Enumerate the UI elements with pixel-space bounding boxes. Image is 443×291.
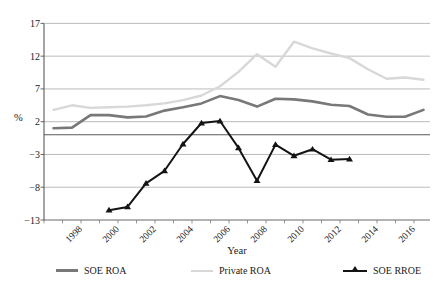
legend-item-soe-rroe: SOE RROE [343,263,421,277]
y-axis-tick-label: 2 [10,115,40,128]
legend-item-soe-roa: SOE ROA [56,263,127,277]
y-axis-tick-label: −3 [10,148,40,161]
roa-rroe-line-chart: % Year 171272−3−8−1319982000200220042006… [0,0,443,291]
soe-rroe-line-swatch-icon [343,263,367,277]
y-axis-tick-label: −13 [10,214,40,227]
triangle-marker-icon [272,141,279,147]
y-axis-tick-label: 7 [10,82,40,95]
legend-label-private-roa: Private ROA [219,265,271,276]
series-line-soe-roa [54,96,424,128]
legend-label-soe-roa: SOE ROA [84,265,127,276]
legend-label-soe-rroe: SOE RROE [373,265,421,276]
x-axis-title: Year [205,245,269,256]
y-axis-tick-label: 17 [10,17,40,30]
private-roa-line-swatch-icon [191,263,213,277]
triangle-marker-icon [351,266,359,272]
legend-item-private-roa: Private ROA [191,263,271,277]
triangle-marker-icon [309,146,316,152]
y-axis-tick-label: −8 [10,181,40,194]
y-axis-tick-label: 12 [10,50,40,63]
soe-roa-line-swatch-icon [56,263,78,277]
